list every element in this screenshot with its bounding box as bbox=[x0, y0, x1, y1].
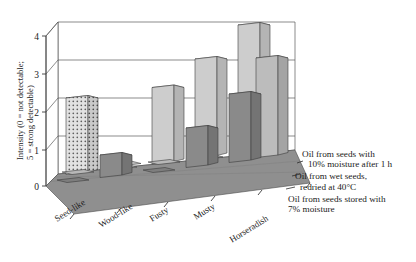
legend-item-3-line2: 7% moisture bbox=[288, 204, 416, 214]
category-label-fusty: Fusty bbox=[148, 204, 171, 223]
chart-figure: 4 3 2 1 0 Intensity (0 = not detectable;… bbox=[0, 0, 416, 262]
legend: Oil from seeds with 10% moisture after 1… bbox=[302, 149, 416, 214]
bar-back-fusty bbox=[152, 85, 184, 164]
bar-back-seed-like bbox=[66, 96, 98, 175]
legend-item-3: Oil from seeds stored with 7% moisture bbox=[288, 194, 416, 214]
y-axis-label: Intensity (0 = not detectable; 5 = stron… bbox=[15, 61, 35, 160]
y-tick-4: 4 bbox=[34, 32, 39, 42]
legend-item-2-line1: Oil from wet seeds, bbox=[295, 171, 416, 181]
x-axis-labels: Seed-like Wood-like Fusty Musty Horserad… bbox=[53, 197, 271, 244]
y-axis: 4 3 2 1 0 bbox=[34, 32, 46, 192]
legend-item-2: Oil from wet seeds, redried at 40°C bbox=[295, 171, 416, 191]
y-tick-2: 2 bbox=[34, 108, 39, 118]
legend-item-1-line1: Oil from seeds with bbox=[302, 149, 416, 159]
legend-item-3-line1: Oil from seeds stored with bbox=[288, 194, 416, 204]
y-axis-label-line2: 5 = strong detectable) bbox=[25, 85, 35, 160]
bar-chart-3d: 4 3 2 1 0 Intensity (0 = not detectable;… bbox=[0, 0, 416, 262]
y-axis-label-line1: Intensity (0 = not detectable; bbox=[15, 61, 25, 160]
category-label-musty: Musty bbox=[192, 201, 217, 222]
y-tick-1: 1 bbox=[34, 146, 39, 156]
y-tick-0: 0 bbox=[34, 182, 39, 192]
y-tick-3: 3 bbox=[34, 70, 39, 80]
bar-front-wood-like bbox=[100, 153, 132, 178]
legend-item-1: Oil from seeds with 10% moisture after 1… bbox=[302, 149, 416, 169]
legend-item-1-line2: 10% moisture after 1 h bbox=[302, 159, 416, 169]
bar-front-musty bbox=[186, 126, 218, 168]
legend-item-2-line2: redried at 40°C bbox=[295, 182, 416, 192]
bar-front-horseradish bbox=[229, 92, 261, 163]
category-label-horseradish: Horseradish bbox=[228, 213, 271, 245]
left-wall bbox=[46, 22, 58, 186]
